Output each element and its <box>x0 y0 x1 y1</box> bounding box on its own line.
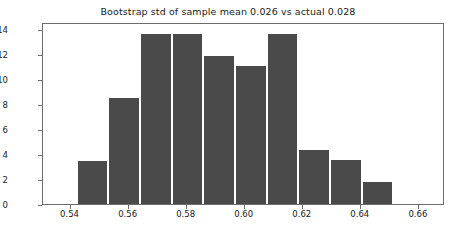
histogram-bar <box>141 34 171 204</box>
histogram-bar <box>109 98 139 204</box>
x-tick-label: 0.56 <box>118 209 137 219</box>
histogram-bar <box>236 66 266 204</box>
y-tick-mark <box>38 180 42 181</box>
histogram-bar <box>268 34 298 204</box>
x-tick-label: 0.58 <box>176 209 195 219</box>
chart-title: Bootstrap std of sample mean 0.026 vs ac… <box>0 6 456 17</box>
y-tick-label: 8 <box>3 100 8 110</box>
histogram-bar <box>299 150 329 204</box>
plot-area <box>42 23 444 205</box>
x-tick-label: 0.60 <box>234 209 253 219</box>
y-tick-mark <box>38 205 42 206</box>
y-tick-mark <box>38 105 42 106</box>
y-tick-label: 2 <box>3 175 8 185</box>
y-tick-label: 12 <box>0 50 8 60</box>
histogram-bar <box>331 160 361 204</box>
bars-layer <box>43 24 443 204</box>
y-tick-label: 14 <box>0 25 8 35</box>
y-tick-label: 6 <box>3 125 8 135</box>
x-tick-label: 0.54 <box>60 209 79 219</box>
y-tick-label: 10 <box>0 75 8 85</box>
y-tick-mark <box>38 55 42 56</box>
x-tick-label: 0.64 <box>350 209 369 219</box>
x-tick-label: 0.62 <box>292 209 311 219</box>
y-tick-mark <box>38 80 42 81</box>
y-tick-mark <box>38 155 42 156</box>
y-tick-mark <box>38 30 42 31</box>
histogram-bar <box>204 56 234 204</box>
histogram-bar <box>78 161 108 204</box>
y-tick-mark <box>38 130 42 131</box>
figure-canvas: Bootstrap std of sample mean 0.026 vs ac… <box>0 0 456 229</box>
y-tick-label: 4 <box>3 150 8 160</box>
y-tick-label: 0 <box>3 200 8 210</box>
histogram-bar <box>173 34 203 204</box>
histogram-bar <box>363 182 393 205</box>
x-tick-label: 0.66 <box>408 209 427 219</box>
